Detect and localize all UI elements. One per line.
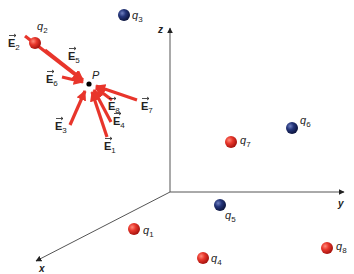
charge-q7: [225, 136, 237, 148]
charge-q3-label: q3: [132, 9, 143, 24]
charge-q6: [286, 122, 298, 134]
charge-q3: [118, 9, 130, 21]
point-p-label: P: [92, 69, 100, 81]
vector-e5-label: E5: [68, 50, 80, 65]
charge-q2-label: q2: [37, 20, 48, 35]
charge-q8: [321, 242, 333, 254]
charge-q1: [128, 223, 140, 235]
vector-e8-label: E8: [108, 100, 120, 115]
vector-labels: [9, 34, 149, 140]
charge-q6-label: q6: [300, 114, 311, 129]
vector-e2-label: E2: [8, 37, 20, 52]
vector-e1-label: E1: [104, 140, 116, 155]
vector-e4-label: E4: [113, 115, 125, 130]
x-axis-label: x: [38, 263, 45, 274]
charge-q4: [197, 252, 209, 264]
charge-q4-label: q4: [211, 252, 222, 267]
vector-e6-label: E6: [46, 73, 58, 88]
x-axis: [36, 192, 170, 261]
charge-q2: [29, 37, 41, 49]
charge-q5-label: q5: [225, 209, 236, 224]
y-axis-label: y: [337, 198, 344, 209]
vector-e7-label: E7: [141, 100, 153, 115]
vector-e3-label: E3: [55, 120, 67, 135]
axes: [36, 28, 344, 261]
field-diagram: z y x P q1 q2 q3 q4 q5 q6 q7 q8: [0, 0, 354, 274]
z-axis-label: z: [157, 24, 163, 35]
charge-q1-label: q1: [143, 224, 154, 239]
charge-q7-label: q7: [240, 134, 251, 149]
charge-q8-label: q8: [336, 240, 347, 255]
point-p: [86, 81, 91, 86]
vector-e3: [70, 91, 85, 125]
